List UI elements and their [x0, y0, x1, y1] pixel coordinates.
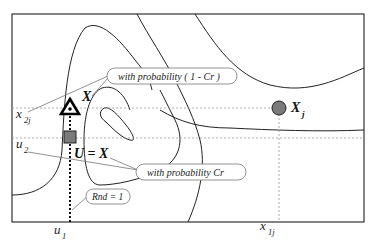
svg-text:x: x — [259, 218, 266, 233]
svg-text:1: 1 — [62, 231, 66, 241]
svg-text:X: X — [290, 100, 301, 115]
crossover-diagram: with probability ( 1 - Cr ) with probabi… — [0, 0, 379, 250]
callout-rnd: Rnd = 1 — [86, 189, 130, 204]
svg-text:2j: 2j — [24, 115, 31, 125]
square-marker-u — [64, 131, 76, 143]
label-x: X — [81, 89, 92, 104]
svg-text:x: x — [15, 106, 22, 121]
svg-text:u: u — [16, 136, 23, 151]
axis-label-u1: u 1 — [54, 222, 66, 241]
callout-1-minus-cr: with probability ( 1 - Cr ) — [107, 68, 237, 84]
callout-text: with probability ( 1 - Cr ) — [118, 71, 221, 83]
callout-cr: with probability Cr — [136, 164, 246, 180]
svg-text:1j: 1j — [268, 227, 275, 237]
callout-text: Rnd = 1 — [91, 192, 123, 202]
callout-text: with probability Cr — [147, 167, 224, 178]
svg-text:u: u — [54, 222, 61, 237]
plot-frame — [12, 14, 364, 222]
circle-marker-xj — [272, 101, 286, 115]
label-u-eq-x: U = X — [74, 146, 109, 161]
